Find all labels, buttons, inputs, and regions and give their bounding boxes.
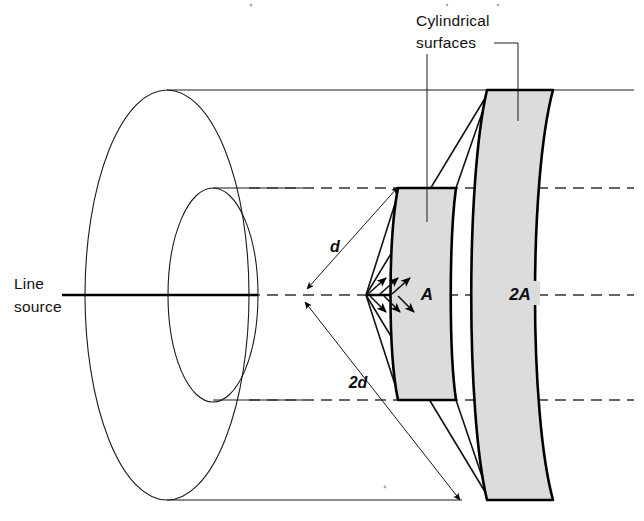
dimension-2d-label: 2d bbox=[348, 374, 369, 391]
line-source-callout: Line source bbox=[14, 275, 62, 315]
line-source-label-line1: Line bbox=[14, 275, 44, 292]
area-label-A: A bbox=[420, 285, 433, 304]
area-label-2A: 2A bbox=[508, 285, 531, 304]
cylindrical-surfaces-label-line1: Cylindrical bbox=[416, 12, 490, 29]
ray-arrow-down-1 bbox=[370, 296, 386, 312]
dimension-d-label: d bbox=[330, 238, 341, 255]
line-source-label-line2: source bbox=[14, 298, 62, 315]
cylindrical-surfaces-label-line2: surfaces bbox=[416, 34, 476, 51]
physics-diagram-inverse-square-line-source: d 2d A 2A Cylindrical surfaces Line sour… bbox=[0, 0, 644, 521]
diagram-canvas: d 2d A 2A Cylindrical surfaces Line sour… bbox=[0, 0, 644, 521]
